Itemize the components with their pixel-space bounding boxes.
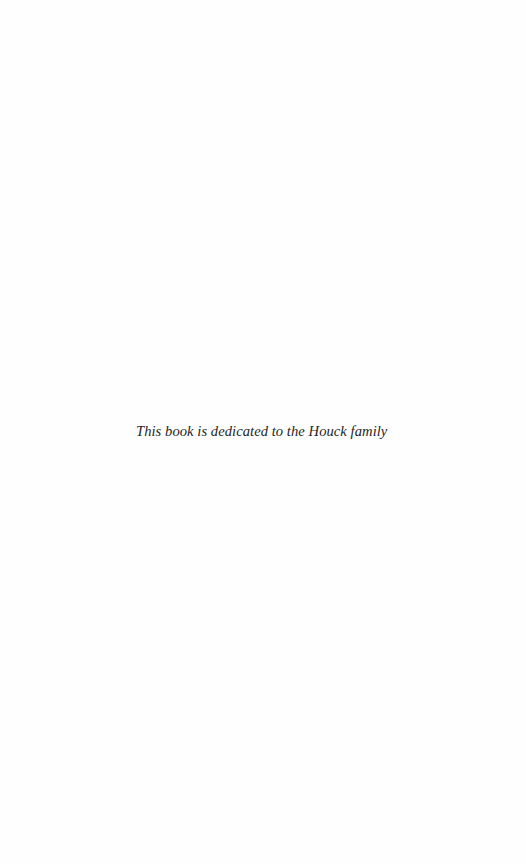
book-page: This book is dedicated to the Houck fami…	[0, 0, 526, 864]
dedication-text: This book is dedicated to the Houck fami…	[136, 421, 387, 441]
